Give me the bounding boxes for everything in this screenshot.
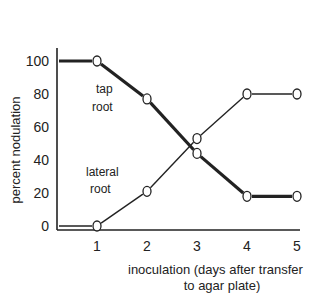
x-tick-label: 4 (243, 238, 251, 254)
data-point-marker (193, 134, 201, 144)
x-tick-label: 3 (193, 238, 201, 254)
nodulation-chart: 02040608010012345percent nodulationinocu… (0, 0, 317, 304)
series-segment (201, 157, 243, 193)
x-axis-label-line2: to agar plate) (184, 278, 261, 293)
y-tick-label: 60 (33, 119, 49, 135)
x-tick-label: 5 (293, 238, 301, 254)
data-point-marker (93, 56, 101, 66)
y-tick-label: 0 (41, 218, 49, 234)
series-segment (150, 103, 193, 150)
data-point-marker (293, 89, 301, 99)
x-tick-label: 1 (93, 238, 101, 254)
tap-root-label-line2: root (92, 100, 113, 114)
lateral-root-label-line1: lateral (86, 165, 119, 179)
tap-root-label-line1: tap (96, 82, 113, 96)
y-tick-label: 20 (33, 185, 49, 201)
x-axis-label-line1: inoculation (days after transfer (128, 262, 304, 277)
data-point-marker (143, 94, 151, 104)
tap-root-series (59, 56, 301, 201)
y-tick-label: 40 (33, 152, 49, 168)
data-point-marker (243, 191, 251, 201)
labels-group: taprootlateralroot (86, 82, 119, 196)
data-point-marker (193, 148, 201, 158)
data-point-marker (243, 89, 251, 99)
chart-svg: 02040608010012345percent nodulationinocu… (0, 0, 317, 304)
data-point-marker (293, 191, 301, 201)
series-segment (150, 142, 193, 188)
y-axis-label: percent nodulation (8, 97, 23, 204)
series-segment (201, 97, 244, 135)
x-tick-label: 2 (143, 238, 151, 254)
lateral-root-label-line2: root (90, 182, 111, 196)
data-point-marker (93, 221, 101, 231)
series-segment (101, 194, 143, 223)
y-tick-label: 100 (26, 53, 50, 69)
axes: 02040608010012345percent nodulationinocu… (8, 48, 304, 293)
y-tick-label: 80 (33, 86, 49, 102)
data-point-marker (143, 186, 151, 196)
